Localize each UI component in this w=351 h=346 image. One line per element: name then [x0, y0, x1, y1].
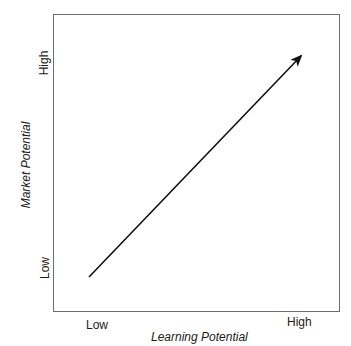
growth-arrow: [89, 56, 301, 277]
x-tick-high: High: [287, 316, 312, 328]
x-axis-label: Learning Potential: [151, 331, 248, 343]
x-tick-low: Low: [86, 319, 108, 331]
y-tick-low: Low: [39, 257, 51, 279]
y-axis-label: Market Potential: [20, 122, 32, 209]
arrow-layer: [0, 0, 351, 346]
y-tick-high: High: [38, 51, 50, 76]
